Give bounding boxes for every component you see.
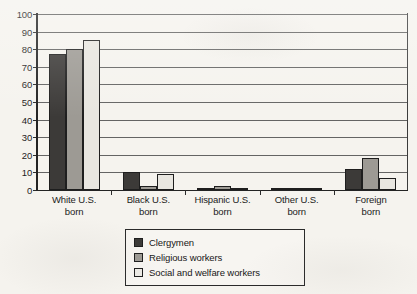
x-axis-category-label: Other U.S.born — [260, 194, 334, 217]
category-label-line-1: Black U.S. — [127, 194, 170, 205]
legend-swatch-icon — [134, 268, 143, 277]
bar-chart: 100 90 80 70 60 50 40 30 20 10 0 — [0, 0, 417, 294]
category-label-line-2: born — [334, 206, 408, 218]
y-axis-tick-label: 80 — [22, 44, 32, 55]
bar-group — [111, 14, 185, 190]
category-label-line-2: born — [260, 206, 334, 218]
x-axis-category-label: Foreignborn — [334, 194, 408, 217]
x-axis-category-label: Hispanic U.S.born — [185, 194, 259, 217]
bar[interactable] — [157, 174, 174, 190]
y-axis-tick-label: 20 — [22, 149, 32, 160]
bar[interactable] — [379, 178, 396, 190]
y-axis-tick-label: 30 — [22, 132, 32, 143]
bar-group-bars — [334, 14, 408, 190]
y-axis-tick-label: 10 — [22, 167, 32, 178]
bar-group-bars — [260, 14, 334, 190]
bar[interactable] — [49, 54, 66, 190]
bar[interactable] — [345, 169, 362, 190]
y-axis-tick-label: 60 — [22, 79, 32, 90]
x-axis-category-labels: White U.S.bornBlack U.S.bornHispanic U.S… — [37, 194, 408, 217]
y-axis-tick-label: 100 — [17, 9, 32, 20]
category-label-line-2: born — [37, 206, 111, 218]
legend-swatch-icon — [134, 238, 143, 247]
y-axis-line — [36, 13, 38, 191]
bar-group — [185, 14, 259, 190]
y-axis-tick-label: 40 — [22, 114, 32, 125]
category-label-line-2: born — [111, 206, 185, 218]
bar-group — [37, 14, 111, 190]
bar-group-bars — [37, 14, 111, 190]
bar-group-bars — [111, 14, 185, 190]
category-label-line-1: Foreign — [355, 194, 387, 205]
legend-swatch-icon — [134, 253, 143, 262]
category-label-line-1: Hispanic U.S. — [194, 194, 250, 205]
bar-groups — [37, 14, 408, 190]
x-axis-category-label: Black U.S.born — [111, 194, 185, 217]
legend-label: Religious workers — [149, 252, 222, 263]
y-axis-tick-label: 70 — [22, 61, 32, 72]
chart-legend: Clergymen Religious workers Social and w… — [125, 229, 305, 286]
legend-item-clergymen[interactable]: Clergymen — [134, 235, 296, 250]
category-label-line-2: born — [185, 206, 259, 218]
bar-group — [334, 14, 408, 190]
legend-item-religious-workers[interactable]: Religious workers — [134, 250, 296, 265]
y-axis-tick-label: 90 — [22, 26, 32, 37]
legend-item-social-and-welfare-workers[interactable]: Social and welfare workers — [134, 265, 296, 280]
bar[interactable] — [66, 49, 83, 190]
legend-label: Clergymen — [149, 237, 194, 248]
y-axis-tick-label: 0 — [27, 185, 32, 196]
bar[interactable] — [123, 172, 140, 190]
bar[interactable] — [362, 158, 379, 190]
bar[interactable] — [83, 40, 100, 190]
bar-group — [260, 14, 334, 190]
y-axis-tick-label: 50 — [22, 97, 32, 108]
bar-group-bars — [185, 14, 259, 190]
y-axis-labels: 100 90 80 70 60 50 40 30 20 10 0 — [2, 14, 32, 190]
plot-wrapper: 100 90 80 70 60 50 40 30 20 10 0 — [0, 0, 417, 294]
category-label-line-1: White U.S. — [52, 194, 96, 205]
legend-label: Social and welfare workers — [149, 267, 260, 278]
x-axis-category-label: White U.S.born — [37, 194, 111, 217]
plot-right-border — [407, 13, 408, 191]
category-label-line-1: Other U.S. — [275, 194, 319, 205]
